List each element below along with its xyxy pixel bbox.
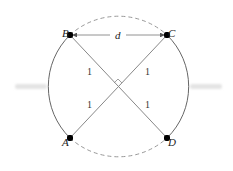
segment-label-bottom-left: 1 xyxy=(87,99,92,110)
segment-label-top-right: 1 xyxy=(145,66,150,77)
segment-label-bottom-right: 1 xyxy=(145,99,150,110)
distance-label: d xyxy=(115,29,121,41)
label-D: D xyxy=(167,136,176,148)
bottom-dashed-arc xyxy=(70,138,167,157)
label-C: C xyxy=(168,27,176,39)
left-solid-arc xyxy=(48,35,70,138)
label-A: A xyxy=(61,136,69,148)
circle-diagram: d B C A D 1 1 1 1 xyxy=(0,0,233,171)
right-solid-arc xyxy=(167,35,189,138)
segment-label-top-left: 1 xyxy=(87,66,92,77)
label-B: B xyxy=(62,27,69,39)
